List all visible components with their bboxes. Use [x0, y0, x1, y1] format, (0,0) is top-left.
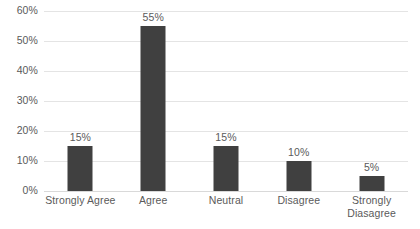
y-axis-tick-label: 60% [0, 4, 38, 16]
y-axis-tick-label: 0% [0, 184, 38, 196]
bar-slot: 15% [44, 11, 117, 191]
bar[interactable] [141, 26, 166, 191]
y-axis-tick-label: 10% [0, 154, 38, 166]
bar-slot: 5% [335, 11, 408, 191]
x-axis: Strongly AgreeAgreeNeutralDisagreeStrong… [44, 194, 408, 229]
bar[interactable] [359, 176, 384, 191]
x-axis-tick-label: Strongly Agree [44, 194, 117, 207]
y-axis-tick-label: 50% [0, 34, 38, 46]
x-axis-tick-label: Disagree [262, 194, 335, 207]
bar-value-label: 15% [215, 131, 236, 143]
y-axis: 0%10%20%30%40%50%60% [0, 0, 40, 229]
bar-value-label: 15% [70, 131, 91, 143]
bar-slot: 15% [190, 11, 263, 191]
plot-area: 15%55%15%10%5% [44, 11, 408, 191]
bar[interactable] [286, 161, 311, 191]
x-axis-tick-label: Agree [117, 194, 190, 207]
bar-chart: 0%10%20%30%40%50%60% 15%55%15%10%5% Stro… [0, 0, 420, 229]
bar[interactable] [68, 146, 93, 191]
x-axis-tick-label: Strongly Diasagree [335, 194, 408, 219]
y-axis-tick-label: 40% [0, 64, 38, 76]
bar-value-label: 55% [143, 11, 164, 23]
y-axis-tick-label: 20% [0, 124, 38, 136]
y-axis-tick-label: 30% [0, 94, 38, 106]
bar-slot: 55% [117, 11, 190, 191]
bar-slot: 10% [262, 11, 335, 191]
x-axis-tick-label: Neutral [190, 194, 263, 207]
bar[interactable] [213, 146, 238, 191]
bar-value-label: 10% [288, 146, 309, 158]
gridline [44, 191, 408, 192]
bar-value-label: 5% [364, 161, 379, 173]
